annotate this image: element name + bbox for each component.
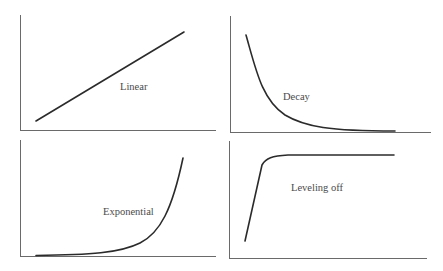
linear-line — [36, 32, 184, 121]
label-leveling-off: Leveling off — [291, 182, 344, 193]
label-linear: Linear — [120, 81, 148, 92]
panel-linear: Linear — [20, 15, 216, 131]
leveling-off-curve — [245, 155, 394, 241]
label-decay: Decay — [283, 91, 311, 102]
panel-leveling-off: Leveling off — [229, 141, 427, 259]
decay-curve — [246, 35, 395, 131]
panel-exponential: Exponential — [20, 140, 216, 257]
growth-patterns-figure: Linear Decay Exponential Leveling off — [0, 0, 443, 271]
panel-decay: Decay — [230, 16, 431, 133]
label-exponential: Exponential — [103, 206, 154, 217]
